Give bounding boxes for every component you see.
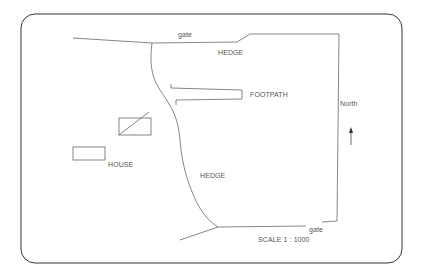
middle-hedge-line [151,43,218,227]
footpath-line-upper [171,84,242,99]
hedge-middle-label: HEDGE [200,172,225,179]
north-label: North [340,100,358,107]
gate-bottom-label: gate [309,226,323,233]
map-frame [21,14,402,263]
outbuilding-rect [119,118,151,135]
house-label: HOUSE [108,161,133,168]
right-boundary-line [337,34,339,221]
top-boundary-line [73,34,339,43]
north-arrow-head [349,127,353,133]
footpath-label: FOOTPATH [250,91,288,98]
bottom-boundary-line [322,221,337,222]
scale-label: SCALE 1 : 1000 [258,236,310,243]
outbuilding-diagonal [119,112,149,135]
hedge-top-label: HEDGE [218,49,243,56]
site-plan-drawing [0,0,421,278]
house-rect [73,147,105,160]
footpath-line-lower [176,99,242,105]
gate-top-label: gate [178,31,192,38]
